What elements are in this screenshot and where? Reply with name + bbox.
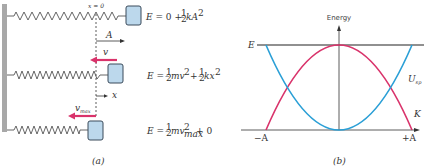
x-left-label: −A [254,133,269,143]
panel-b: Energy E Usp K −A +A (b) [241,14,424,166]
svg-text:+: + [190,71,198,81]
svg-text:2: 2 [215,67,221,77]
x-axis-arrowhead [414,128,420,132]
svg-text:E =: E = [146,126,164,136]
total-energy-label: E [247,40,255,50]
origin-label: x = 0 [88,2,104,9]
equation-1: E = 0 + 1 2 kA 2 [145,8,204,24]
block-1 [126,6,141,25]
spring-1 [7,12,126,20]
vmax-arrowhead [68,113,75,120]
equation-2: E = 1 2 mv 2 + 1 2 kx 2 [146,67,221,83]
amplitude-arrowhead [120,39,125,43]
x-right-label: +A [402,133,417,143]
svg-text:2: 2 [198,8,204,18]
y-axis-label: Energy [327,14,352,22]
caption-a: (a) [92,156,105,166]
spring-3 [7,126,88,134]
block-3 [88,121,103,140]
svg-text:+ 0: + 0 [196,126,212,136]
velocity-label: v [103,47,108,57]
equation-3: E = 1 2 mv 2 max + 0 [146,122,212,139]
y-axis-arrowhead [337,25,341,31]
caption-b: (b) [333,156,346,166]
vmax-label: vmax [75,103,91,114]
block-2 [108,64,123,83]
svg-text:kA: kA [186,12,198,22]
velocity-arrowhead [90,57,97,64]
svg-text:E =: E = [146,71,164,81]
spring-2 [7,71,108,79]
energy-diagram: x = 0 A v x vmax E = 0 + 1 2 kA 2 E = 1 [0,0,442,168]
wall [2,4,7,132]
potential-label: Usp [408,74,422,86]
kinetic-label: K [413,109,422,119]
svg-text:mv: mv [171,126,185,136]
x-label: x [112,90,117,100]
amplitude-label: A [105,30,113,40]
x-arrowhead [104,94,108,97]
panel-a: x = 0 A v x vmax E = 0 + 1 2 kA 2 E = 1 [2,2,221,166]
svg-text:2: 2 [184,67,190,77]
svg-text:kx: kx [204,71,215,81]
svg-text:E = 0 +: E = 0 + [145,12,182,22]
svg-text:mv: mv [171,71,185,81]
